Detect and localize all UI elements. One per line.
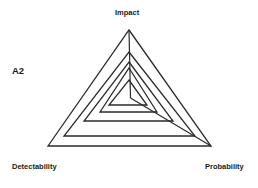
grid-ring-1: [109, 80, 147, 105]
radar-chart: [0, 0, 258, 188]
axis-line-impact: [129, 30, 131, 98]
